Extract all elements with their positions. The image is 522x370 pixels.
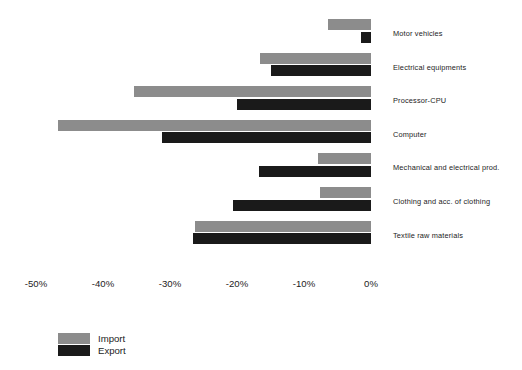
legend-item: Export (58, 344, 126, 356)
x-tick-label: -50% (25, 278, 47, 289)
category-label: Electrical equipments (393, 63, 466, 72)
plot-area: Motor vehiclesElectrical equipmentsProce… (0, 0, 522, 270)
bar-import (320, 187, 371, 198)
legend-swatch-icon (58, 345, 90, 356)
legend-label: Export (98, 345, 126, 356)
bar-import (195, 221, 371, 232)
legend-swatch-icon (58, 333, 90, 344)
bar-import (134, 86, 371, 97)
x-tick-label: 0% (364, 278, 378, 289)
bar-import (318, 153, 371, 164)
x-tick-label: -30% (159, 278, 181, 289)
bar-import (58, 120, 371, 131)
bar-export (271, 65, 371, 76)
bar-chart: Motor vehiclesElectrical equipmentsProce… (0, 0, 522, 370)
legend-label: Import (98, 333, 125, 344)
category-label: Processor-CPU (393, 96, 446, 105)
x-axis-tick-labels: -50%-40%-30%-20%-10%0% (0, 278, 522, 298)
bar-export (361, 32, 371, 43)
bar-export (162, 132, 371, 143)
bar-export (259, 166, 371, 177)
bar-import (260, 53, 371, 64)
bar-export (237, 99, 371, 110)
category-label: Mechanical and electrical prod. (393, 163, 499, 172)
category-label: Motor vehicles (393, 29, 443, 38)
category-label: Computer (393, 130, 427, 139)
bar-export (193, 233, 371, 244)
x-tick-label: -20% (226, 278, 248, 289)
bar-export (233, 200, 371, 211)
x-tick-label: -40% (92, 278, 114, 289)
category-label: Clothing and acc. of clothing (393, 197, 490, 206)
category-label: Textile raw materials (393, 231, 463, 240)
chart-legend: ImportExport (58, 332, 126, 356)
x-tick-label: -10% (293, 278, 315, 289)
bar-import (328, 19, 371, 30)
legend-item: Import (58, 332, 126, 344)
